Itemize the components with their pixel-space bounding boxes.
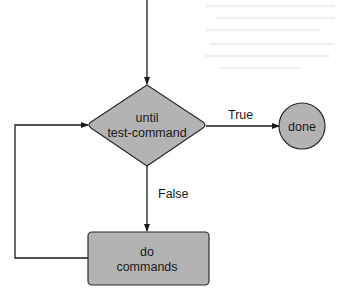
decision-label-line-1: until bbox=[136, 111, 159, 125]
until-loop-flowchart: until test-command True done False do co… bbox=[0, 0, 337, 303]
done-node: done bbox=[279, 103, 325, 149]
decision-label-line-2: test-command bbox=[107, 126, 186, 140]
page-bleed-texture bbox=[205, 6, 335, 68]
body-label-line-2: commands bbox=[116, 260, 177, 274]
body-label-line-1: do bbox=[140, 245, 154, 259]
body-node: do commands bbox=[88, 232, 209, 285]
false-edge-label: False bbox=[158, 187, 189, 201]
decision-node: until test-command bbox=[89, 85, 205, 166]
true-edge-label: True bbox=[228, 108, 253, 122]
loop-back-edge-arrow bbox=[15, 125, 88, 258]
done-label: done bbox=[288, 120, 316, 134]
